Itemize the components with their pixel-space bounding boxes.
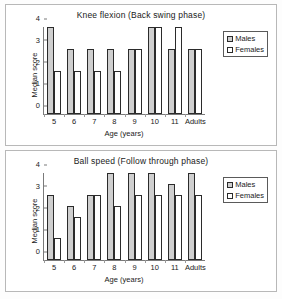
legend-label-females: Females	[235, 45, 264, 54]
bar-males	[47, 27, 54, 114]
bar-females	[195, 49, 202, 114]
bar-group: 5	[44, 173, 64, 260]
bar-group: 9	[125, 173, 145, 260]
legend-label-females: Females	[235, 191, 264, 200]
x-axis-label: Age (years)	[43, 275, 205, 284]
bar-males	[107, 49, 114, 114]
bar-group: 5	[44, 27, 64, 114]
y-axis-tick: 4	[36, 14, 44, 23]
plot-area-wrapper: Median score 01234567891011Adults Age (y…	[6, 5, 276, 145]
x-axis-tick: 7	[84, 114, 104, 126]
bar-group: 10	[145, 173, 165, 260]
legend: Males Females	[223, 177, 268, 203]
bar-females	[155, 27, 162, 114]
bar-group: 11	[165, 173, 185, 260]
legend-swatch-females-icon	[227, 193, 233, 199]
x-axis-tick: 10	[145, 114, 165, 126]
bar-group: 8	[104, 173, 124, 260]
bar-females	[94, 195, 101, 260]
figure-container: Knee flexion (Back swing phase) Median s…	[0, 0, 282, 299]
x-axis-tick: 8	[104, 114, 124, 126]
legend-label-males: Males	[235, 34, 255, 43]
y-axis-tick: 2	[36, 203, 44, 212]
bar-males	[148, 27, 155, 114]
bar-females	[114, 71, 121, 115]
x-axis-tick: 5	[44, 114, 64, 126]
chart-panel-knee-flexion: Knee flexion (Back swing phase) Median s…	[5, 4, 277, 146]
plot-area: 01234567891011Adults	[43, 173, 205, 261]
x-axis-tick: 11	[165, 260, 185, 272]
y-axis-tick: 3	[36, 35, 44, 44]
y-axis-tick: 4	[36, 160, 44, 169]
legend-label-males: Males	[235, 180, 255, 189]
x-axis-tick: 5	[44, 260, 64, 272]
bar-males	[168, 184, 175, 260]
y-axis-tick: 1	[36, 79, 44, 88]
bar-females	[54, 238, 61, 260]
y-axis-tick: 0	[36, 247, 44, 256]
bar-females	[195, 195, 202, 260]
x-axis-tick: Adults	[185, 114, 205, 126]
x-axis-label: Age (years)	[43, 129, 205, 138]
chart-panel-ball-speed: Ball speed (Follow through phase) Median…	[5, 150, 277, 292]
y-axis-tick: 2	[36, 57, 44, 66]
legend-item-females: Females	[227, 45, 264, 54]
x-axis-tick: 10	[145, 260, 165, 272]
legend-swatch-males-icon	[227, 182, 233, 188]
bar-group: 10	[145, 27, 165, 114]
legend-item-males: Males	[227, 34, 264, 43]
bar-females	[135, 49, 142, 114]
y-axis-tick: 3	[36, 181, 44, 190]
bar-group: 8	[104, 27, 124, 114]
bar-males	[67, 49, 74, 114]
bar-males	[107, 173, 114, 260]
bar-females	[155, 195, 162, 260]
bar-females	[74, 217, 81, 261]
y-axis-tick: 1	[36, 225, 44, 234]
x-axis-tick: Adults	[185, 260, 205, 272]
bar-males	[168, 49, 175, 114]
bar-males	[128, 173, 135, 260]
plot-area-wrapper: Median score 01234567891011Adults Age (y…	[6, 151, 276, 291]
legend-swatch-males-icon	[227, 36, 233, 42]
plot-area: 01234567891011Adults	[43, 27, 205, 115]
bar-males	[87, 195, 94, 260]
bar-females	[175, 195, 182, 260]
bar-group: Adults	[185, 173, 205, 260]
x-axis-tick: 11	[165, 114, 185, 126]
x-axis-tick: 9	[125, 114, 145, 126]
bar-group: 11	[165, 27, 185, 114]
bar-males	[87, 49, 94, 114]
legend-item-females: Females	[227, 191, 264, 200]
legend-swatch-females-icon	[227, 47, 233, 53]
bar-females	[54, 71, 61, 115]
bar-groups: 567891011Adults	[44, 173, 205, 260]
legend-item-males: Males	[227, 180, 264, 189]
x-axis-tick: 8	[104, 260, 124, 272]
bar-males	[188, 49, 195, 114]
legend: Males Females	[223, 31, 268, 57]
bar-group: 7	[84, 27, 104, 114]
bar-females	[114, 206, 121, 260]
bar-females	[74, 71, 81, 115]
x-axis-tick: 6	[64, 114, 84, 126]
bar-group: Adults	[185, 27, 205, 114]
bar-females	[175, 27, 182, 114]
bar-group: 9	[125, 27, 145, 114]
bar-group: 6	[64, 173, 84, 260]
bar-males	[47, 195, 54, 260]
x-axis-tick: 6	[64, 260, 84, 272]
bar-males	[148, 173, 155, 260]
bar-group: 6	[64, 27, 84, 114]
bar-males	[67, 206, 74, 260]
bar-group: 7	[84, 173, 104, 260]
bar-males	[188, 173, 195, 260]
y-axis-tick: 0	[36, 101, 44, 110]
bar-males	[128, 49, 135, 114]
bar-females	[94, 71, 101, 115]
bar-groups: 567891011Adults	[44, 27, 205, 114]
bar-females	[135, 195, 142, 260]
x-axis-tick: 7	[84, 260, 104, 272]
x-axis-tick: 9	[125, 260, 145, 272]
